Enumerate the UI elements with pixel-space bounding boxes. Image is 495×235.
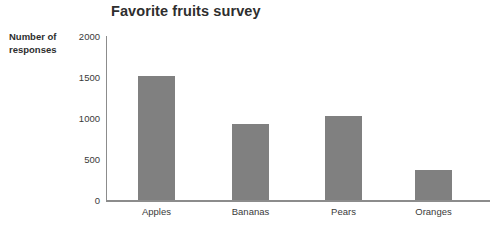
x-axis-tick-label: Oranges: [394, 206, 474, 217]
x-axis-line: [106, 200, 490, 202]
x-axis-tick-label: Apples: [117, 206, 197, 217]
chart-title: Favorite fruits survey: [111, 3, 261, 19]
y-axis-tick-label: 0: [56, 195, 100, 206]
bar: [415, 170, 452, 200]
bars-container: [106, 36, 490, 200]
bar: [138, 76, 175, 200]
y-axis-tick-label: 500: [56, 154, 100, 165]
y-axis-tick-label: 2000: [56, 31, 100, 42]
bar: [325, 116, 362, 200]
y-axis-tick-labels: 0500100015002000: [54, 0, 100, 235]
bar: [232, 124, 269, 200]
x-axis-tick-label: Bananas: [211, 206, 291, 217]
y-axis-tick-label: 1000: [56, 113, 100, 124]
y-axis-tick-label: 1500: [56, 72, 100, 83]
bar-chart: Favorite fruits survey Number of respons…: [0, 0, 495, 235]
x-axis-tick-label: Pears: [304, 206, 384, 217]
